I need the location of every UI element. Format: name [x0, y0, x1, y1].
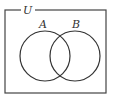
set-b-label: B: [71, 18, 80, 31]
set-b-circle: [50, 31, 100, 81]
universe-label: U: [23, 4, 33, 17]
set-a-label: A: [38, 18, 47, 31]
set-a-circle: [20, 31, 70, 81]
venn-diagram: U A B: [0, 0, 119, 100]
